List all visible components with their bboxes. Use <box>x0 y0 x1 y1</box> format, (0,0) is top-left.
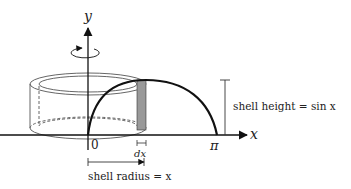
shell-radius-label: shell radius = x <box>88 170 171 182</box>
shell-method-diagram: y x 0 π dx shell height = sin x shell ra… <box>0 0 351 189</box>
height-bracket <box>220 80 230 135</box>
radius-bracket <box>88 158 144 166</box>
sine-curve <box>88 80 217 135</box>
shell-height-label: shell height = sin x <box>233 100 336 112</box>
dx-label: dx <box>134 148 146 159</box>
dx-bracket <box>137 140 146 146</box>
rotation-arrow-icon <box>71 48 99 58</box>
x-axis-label: x <box>250 126 258 142</box>
y-axis-label: y <box>83 8 93 24</box>
shell-strip <box>137 80 146 130</box>
pi-label: π <box>209 138 219 153</box>
origin-label: 0 <box>91 138 99 152</box>
